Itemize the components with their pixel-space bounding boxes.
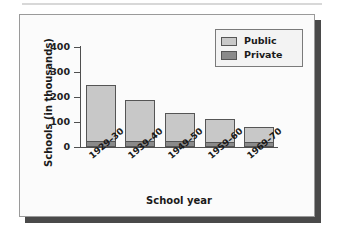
y-tick-mark — [74, 47, 81, 48]
legend-swatch-public — [221, 37, 237, 46]
legend-item-private: Private — [221, 48, 297, 62]
y-tick-mark — [74, 122, 81, 123]
y-tick-label: 200 — [20, 92, 70, 102]
y-tick-label: 300 — [20, 67, 70, 77]
x-axis-title: School year — [80, 195, 278, 206]
chart-legend: Public Private — [215, 29, 303, 67]
y-tick-label: 400 — [20, 42, 70, 52]
y-tick-label: 100 — [20, 117, 70, 127]
y-tick-label: 0 — [20, 142, 70, 152]
chart-panel: Schools (in thousands) 0100200300400 192… — [19, 14, 315, 217]
top-divider-rule — [22, 3, 322, 5]
y-tick-mark — [74, 147, 81, 148]
y-tick-mark — [74, 97, 81, 98]
legend-label-public: Public — [244, 36, 277, 46]
legend-swatch-private — [221, 51, 237, 60]
figure-page: Schools (in thousands) 0100200300400 192… — [0, 0, 338, 237]
y-tick-mark — [74, 72, 81, 73]
legend-label-private: Private — [244, 50, 283, 60]
legend-item-public: Public — [221, 34, 297, 48]
